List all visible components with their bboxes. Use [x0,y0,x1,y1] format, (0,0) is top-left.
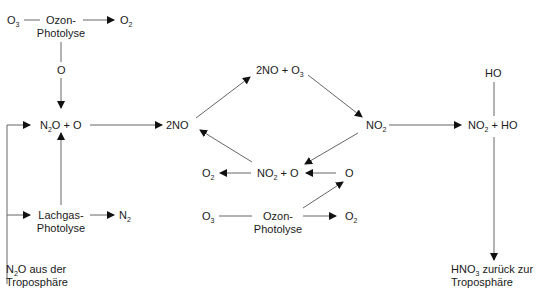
n2o-plus-o-label: N2O + O [40,119,82,132]
o3-bottom-label: O3 [202,210,214,223]
o2-top-label: O2 [120,14,132,27]
o2-mid-label: O2 [202,167,214,180]
ozon-photolyse-top-label: Ozon-Photolyse [36,14,86,40]
no2-plus-ho-label: NO2 + HO [468,119,517,132]
n2-label: N2 [119,209,131,222]
lachgas-photolyse-label: Lachgas-Photolyse [33,209,89,235]
n2o-source-label: N2O aus derTroposphäre [6,263,68,289]
ho-label: HO [485,67,502,80]
ozon-photolyse-bottom-label: Ozon-Photolyse [252,210,304,236]
o-mid-label: O [345,167,354,180]
o2-bottom-label: O2 [345,210,357,223]
reaction-arrows [0,0,546,299]
two-no-label: 2NO [166,119,189,132]
no2-label: NO2 [366,119,386,132]
no2-plus-o-label: NO2 + O [257,167,299,180]
o3-top-label: O3 [7,14,19,27]
hno3-sink-label: HNO3 zurück zurTroposphäre [451,263,533,289]
o-top-label: O [57,64,66,77]
two-no-plus-o3-label: 2NO + O3 [256,64,304,77]
